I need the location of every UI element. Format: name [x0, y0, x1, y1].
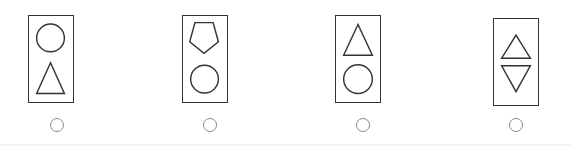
option-2	[171, 0, 251, 146]
option-4-shapes	[494, 19, 538, 105]
option-2-shapes	[183, 16, 227, 102]
option-4-radio[interactable]	[509, 118, 523, 132]
circle-icon	[344, 65, 373, 94]
option-2-figure[interactable]	[182, 15, 228, 103]
circle-icon	[37, 24, 65, 52]
triangle-up-icon	[37, 63, 65, 94]
option-1-figure[interactable]	[28, 15, 74, 103]
triangle-down-icon	[502, 66, 531, 92]
option-1-radio[interactable]	[50, 118, 64, 132]
option-2-radio[interactable]	[203, 118, 217, 132]
pentagon-icon	[190, 23, 219, 54]
divider	[0, 144, 571, 146]
option-3-shapes	[336, 16, 380, 102]
option-1	[17, 0, 97, 146]
option-3-figure[interactable]	[335, 15, 381, 103]
triangle-up-icon	[344, 25, 373, 56]
option-1-shapes	[29, 16, 73, 102]
option-3	[324, 0, 404, 146]
triangle-up-icon	[502, 35, 531, 58]
circle-icon	[191, 65, 219, 93]
option-3-radio[interactable]	[356, 118, 370, 132]
option-4	[482, 0, 562, 146]
option-4-figure[interactable]	[493, 18, 539, 106]
